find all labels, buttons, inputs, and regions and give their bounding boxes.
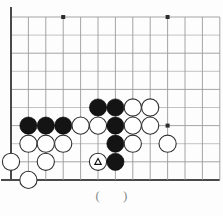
stone-black-2-6[interactable] [37, 117, 54, 134]
stone-white-0-8[interactable] [2, 153, 19, 170]
stone-white-7-6[interactable] [124, 117, 141, 134]
stone-black-1-6[interactable] [20, 117, 37, 134]
star-point-0 [61, 15, 65, 19]
stone-black-3-6[interactable] [55, 117, 72, 134]
stone-black-6-7[interactable] [107, 135, 124, 152]
go-problem-screenshot: ( ) [0, 0, 223, 216]
stone-white-8-5[interactable] [142, 99, 159, 116]
star-point-1 [166, 15, 170, 19]
stone-white-5-8[interactable] [89, 153, 106, 170]
star-point-2 [166, 124, 170, 128]
answer-parentheses-caption: ( ) [0, 188, 223, 204]
stone-white-2-7[interactable] [37, 135, 54, 152]
stone-black-6-8[interactable] [107, 153, 124, 170]
go-board[interactable] [0, 0, 223, 200]
stone-white-9-7[interactable] [159, 135, 176, 152]
stone-white-3-7[interactable] [55, 135, 72, 152]
stone-white-8-6[interactable] [142, 117, 159, 134]
grid-lines [1, 7, 220, 180]
stone-white-5-6[interactable] [89, 117, 106, 134]
stone-white-7-7[interactable] [124, 135, 141, 152]
stone-white-2-8[interactable] [37, 153, 54, 170]
stone-white-1-9[interactable] [20, 171, 37, 188]
stone-black-5-5[interactable] [89, 99, 106, 116]
stone-white-7-5[interactable] [124, 99, 141, 116]
stone-white-1-7[interactable] [20, 135, 37, 152]
stone-black-6-6[interactable] [107, 117, 124, 134]
stone-white-4-6[interactable] [72, 117, 89, 134]
stone-black-6-5[interactable] [107, 99, 124, 116]
